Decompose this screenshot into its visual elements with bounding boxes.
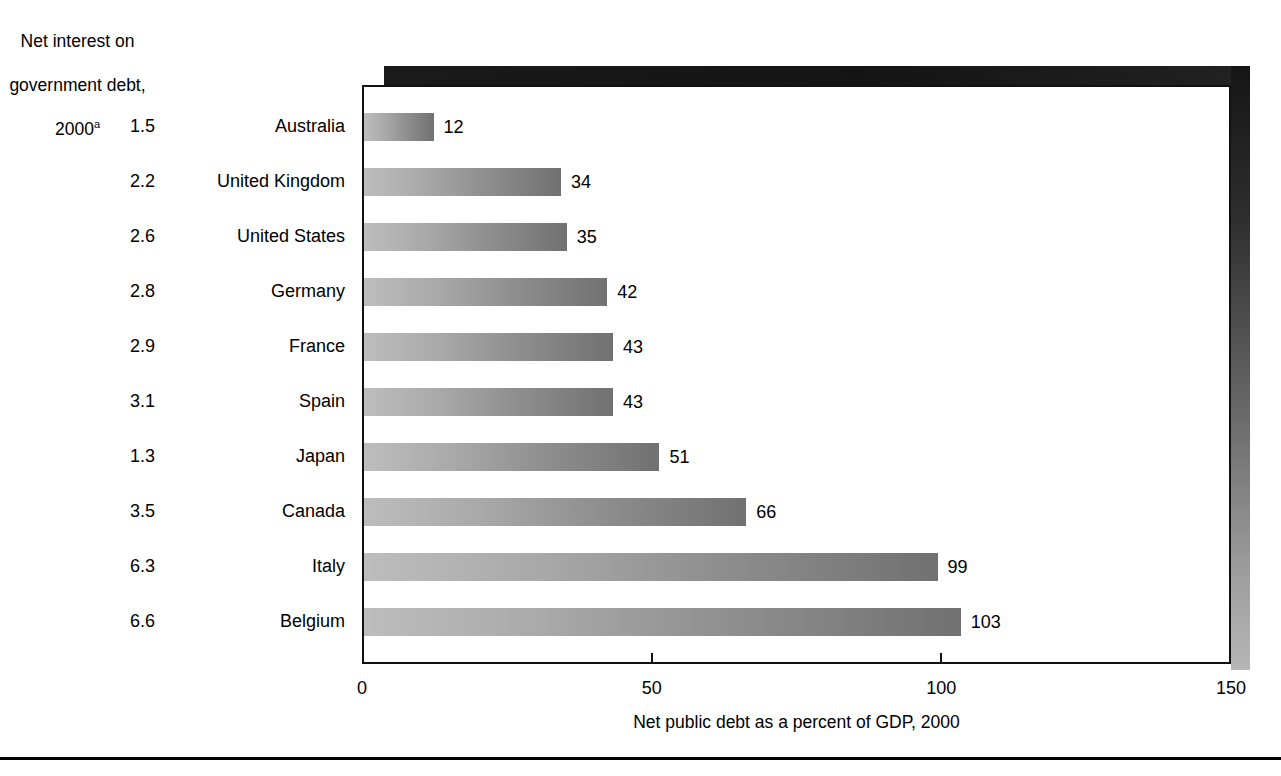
x-axis-tick-label: 0 [327, 678, 397, 699]
plot-shadow-right [1231, 66, 1250, 670]
interest-value: 2.6 [60, 226, 155, 247]
bar-value-label: 103 [971, 608, 1001, 636]
interest-value: 1.5 [60, 116, 155, 137]
country-label: Australia [160, 116, 345, 137]
bar-value-label: 42 [617, 278, 637, 306]
interest-value: 6.6 [60, 611, 155, 632]
country-label: France [160, 336, 345, 357]
bar [364, 498, 746, 526]
country-label: United Kingdom [160, 171, 345, 192]
figure-panel: Net interest on government debt, 2000a 1… [0, 0, 1281, 776]
x-axis-tick-label: 50 [617, 678, 687, 699]
row-header-line1: Net interest on [21, 31, 135, 51]
bar [364, 168, 561, 196]
row-header-line2: government debt, [9, 75, 145, 95]
bar-value-label: 99 [948, 553, 968, 581]
x-axis-tick [940, 653, 942, 664]
country-label: Italy [160, 556, 345, 577]
bar-value-label: 35 [577, 223, 597, 251]
x-axis-title: Net public debt as a percent of GDP, 200… [362, 712, 1231, 733]
x-axis-tick-label: 100 [906, 678, 976, 699]
country-label: Belgium [160, 611, 345, 632]
bar [364, 553, 938, 581]
bar [364, 608, 961, 636]
interest-value: 3.1 [60, 391, 155, 412]
interest-value: 3.5 [60, 501, 155, 522]
x-axis-tick-label: 150 [1196, 678, 1266, 699]
interest-value: 2.9 [60, 336, 155, 357]
bar [364, 388, 613, 416]
plot-shadow-top [384, 66, 1250, 85]
interest-value: 6.3 [60, 556, 155, 577]
interest-value: 1.3 [60, 446, 155, 467]
country-label: Canada [160, 501, 345, 522]
bar-value-label: 51 [669, 443, 689, 471]
bar [364, 113, 434, 141]
bar-value-label: 12 [444, 113, 464, 141]
bar [364, 333, 613, 361]
interest-value: 2.2 [60, 171, 155, 192]
country-label: Germany [160, 281, 345, 302]
bar-value-label: 43 [623, 388, 643, 416]
bar [364, 223, 567, 251]
country-label: Japan [160, 446, 345, 467]
x-axis-tick [651, 653, 653, 664]
bar-value-label: 43 [623, 333, 643, 361]
bottom-rule [0, 757, 1281, 760]
bar-value-label: 34 [571, 168, 591, 196]
interest-value: 2.8 [60, 281, 155, 302]
country-label: United States [160, 226, 345, 247]
country-label: Spain [160, 391, 345, 412]
bar-value-label: 66 [756, 498, 776, 526]
bar [364, 443, 659, 471]
bar [364, 278, 607, 306]
